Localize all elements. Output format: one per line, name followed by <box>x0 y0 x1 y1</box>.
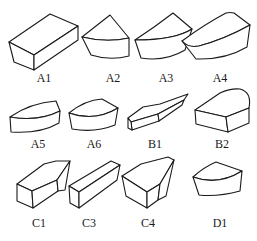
shape-a6 <box>69 99 118 130</box>
label-a3: A3 <box>159 72 174 84</box>
shape-a3 <box>135 13 192 59</box>
shape-a2 <box>82 15 129 58</box>
shape-drawings <box>0 0 257 241</box>
label-a4: A4 <box>213 72 228 84</box>
label-a5: A5 <box>31 138 46 150</box>
shape-c4 <box>122 157 174 208</box>
label-b2: B2 <box>215 138 229 150</box>
label-c1: C1 <box>32 217 46 229</box>
shape-d1 <box>193 162 242 196</box>
shape-c3 <box>69 161 120 208</box>
shape-c1 <box>17 161 70 208</box>
shape-b2 <box>195 89 250 132</box>
label-c3: C3 <box>82 217 96 229</box>
shape-b1 <box>128 94 188 130</box>
shape-diagram: A1 A2 A3 A4 A5 A6 B1 B2 C1 C3 C4 D1 <box>0 0 257 241</box>
label-c4: C4 <box>141 217 155 229</box>
label-d1: D1 <box>213 217 228 229</box>
label-a2: A2 <box>106 72 121 84</box>
label-a6: A6 <box>87 138 102 150</box>
shape-a1 <box>9 14 78 70</box>
shape-a5 <box>10 101 60 132</box>
shape-a4 <box>182 13 250 60</box>
label-a1: A1 <box>37 72 52 84</box>
label-b1: B1 <box>148 138 162 150</box>
